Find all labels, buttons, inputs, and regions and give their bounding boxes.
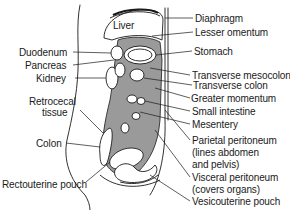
label-parietal-desc-1: (lines abdomen bbox=[192, 147, 259, 158]
label-small-intestine: Small intestine bbox=[192, 106, 256, 117]
label-colon: Colon bbox=[36, 138, 62, 149]
label-kidney: Kidney bbox=[36, 73, 66, 84]
label-lesser-omentum: Lesser omentum bbox=[195, 27, 268, 38]
label-greater-omentum: Greater momentum bbox=[191, 93, 276, 104]
label-stomach: Stomach bbox=[194, 46, 233, 57]
pancreas bbox=[115, 63, 125, 77]
label-visceral-desc: (covers organs) bbox=[192, 184, 260, 195]
label-mesentery: Mesentery bbox=[192, 119, 238, 130]
label-parietal-desc-2: and pelvis) bbox=[192, 159, 239, 170]
label-liver: Liver bbox=[113, 20, 134, 31]
label-rectouterine-pouch: Rectouterine pouch bbox=[2, 179, 87, 190]
label-pancreas: Pancreas bbox=[25, 60, 66, 71]
label-vesicouterine-pouch: Vesicouterine pouch bbox=[192, 196, 280, 207]
label-duodenum: Duodenum bbox=[19, 47, 67, 58]
transverse-colon bbox=[130, 69, 144, 81]
label-retrocecal: Retrocecal bbox=[29, 96, 76, 107]
label-parietal-peritoneum: Parietal peritoneum bbox=[192, 135, 277, 146]
label-retrocecal-tissue: tissue bbox=[42, 107, 68, 118]
label-diaphragm: Diaphragm bbox=[195, 13, 243, 24]
duodenum bbox=[111, 46, 123, 60]
label-visceral-peritoneum: Visceral peritoneum bbox=[192, 172, 278, 183]
label-transverse-colon: Transverse colon bbox=[193, 80, 268, 91]
